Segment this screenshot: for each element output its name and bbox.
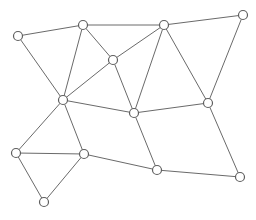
node-H — [204, 99, 213, 108]
edge-F-J — [65, 104, 83, 150]
node-I — [12, 149, 21, 158]
node-F — [59, 96, 68, 105]
edge-C-E — [117, 28, 161, 58]
edge-C-G — [135, 29, 162, 108]
edge-C-D — [168, 16, 238, 25]
edge-L-M — [161, 170, 235, 176]
edge-B-F — [64, 29, 82, 95]
edge-E-G — [115, 64, 133, 109]
node-L — [153, 166, 162, 175]
edge-J-L — [88, 155, 152, 169]
edge-B-E — [86, 28, 110, 56]
edge-G-L — [136, 117, 156, 166]
node-M — [236, 173, 245, 182]
edge-H-M — [210, 107, 238, 173]
node-E — [109, 56, 118, 65]
edge-F-G — [67, 101, 129, 112]
node-A — [14, 32, 23, 41]
node-D — [239, 11, 248, 20]
edge-G-H — [138, 104, 203, 113]
edge-I-K — [18, 157, 42, 198]
edge-F-I — [19, 103, 60, 149]
node-G — [130, 109, 139, 118]
edge-A-F — [21, 40, 61, 97]
edge-I-J — [20, 153, 79, 154]
edge-E-F — [67, 63, 110, 97]
node-B — [79, 21, 88, 30]
node-C — [160, 21, 169, 30]
node-J — [80, 150, 89, 159]
edge-A-B — [22, 26, 78, 35]
edge-C-H — [166, 29, 206, 99]
edge-D-H — [210, 19, 242, 99]
node-layer — [12, 11, 248, 207]
node-K — [40, 198, 49, 207]
edge-J-K — [47, 157, 81, 198]
network-graph — [0, 0, 256, 220]
